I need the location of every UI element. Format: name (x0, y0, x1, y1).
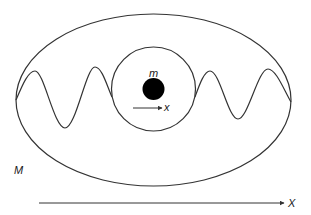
mass-dot (143, 78, 165, 100)
small-coordinate-label: x (163, 101, 170, 113)
large-coordinate-label: X (287, 197, 296, 209)
right-potential-wave (195, 69, 291, 119)
left-potential-wave (16, 67, 112, 128)
large-mass-label: M (14, 164, 24, 176)
small-mass-label: m (149, 67, 158, 79)
diagram-canvas: m x M X (0, 0, 311, 215)
